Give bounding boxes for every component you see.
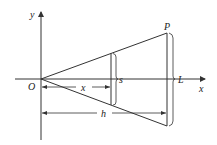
upper-edge [41, 33, 167, 79]
y-axis-label: y [29, 9, 35, 20]
s-label: s [119, 74, 123, 85]
point-p-label: P [163, 21, 170, 32]
triangle-slice-diagram: y x O P s L x h [0, 0, 217, 145]
x-distance-label: x [80, 82, 86, 93]
x-axis-label: x [198, 83, 204, 94]
l-label: L [177, 74, 184, 85]
h-distance-label: h [101, 108, 106, 119]
origin-label: O [28, 81, 35, 92]
